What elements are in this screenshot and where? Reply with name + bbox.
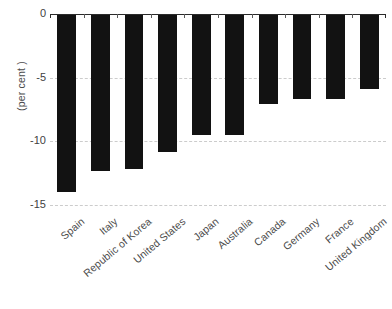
x-axis-tick — [151, 14, 152, 18]
bar-series — [50, 14, 386, 205]
y-tick-label: -10 — [16, 135, 46, 146]
x-axis-label: Spain — [58, 215, 87, 242]
bar — [259, 14, 278, 104]
x-axis-tick — [252, 14, 253, 18]
bar — [125, 14, 144, 169]
x-axis-category-labels: SpainItalyRepublic of KoreaUnited States… — [50, 205, 386, 309]
bar-chart: (per cent ) 0-5-10-15 SpainItalyRepublic… — [0, 0, 392, 309]
x-axis-tick — [117, 14, 118, 18]
x-axis-label: Australia — [215, 215, 255, 251]
x-axis-tick — [319, 14, 320, 18]
bar — [91, 14, 110, 171]
y-tick-label: -15 — [16, 199, 46, 210]
bar — [360, 14, 379, 89]
bar — [192, 14, 211, 135]
bar — [326, 14, 345, 99]
x-axis-label: Germany — [280, 215, 321, 252]
plot-area — [50, 14, 386, 205]
x-axis-tick — [285, 14, 286, 18]
bar — [225, 14, 244, 135]
x-axis-label: Italy — [97, 215, 120, 237]
x-axis-label: Japan — [191, 215, 221, 243]
y-tick-label: -5 — [16, 72, 46, 83]
x-axis-tick — [84, 14, 85, 18]
y-tick-label: 0 — [16, 8, 46, 19]
bar — [158, 14, 177, 152]
y-axis-tick-labels: 0-5-10-15 — [10, 0, 46, 309]
bar — [293, 14, 312, 99]
x-axis-tick — [352, 14, 353, 18]
x-axis-tick — [184, 14, 185, 18]
axis-cap-right-icon — [385, 14, 386, 18]
x-axis-tick — [218, 14, 219, 18]
axis-cap-left-icon — [50, 14, 51, 18]
bar — [57, 14, 76, 192]
